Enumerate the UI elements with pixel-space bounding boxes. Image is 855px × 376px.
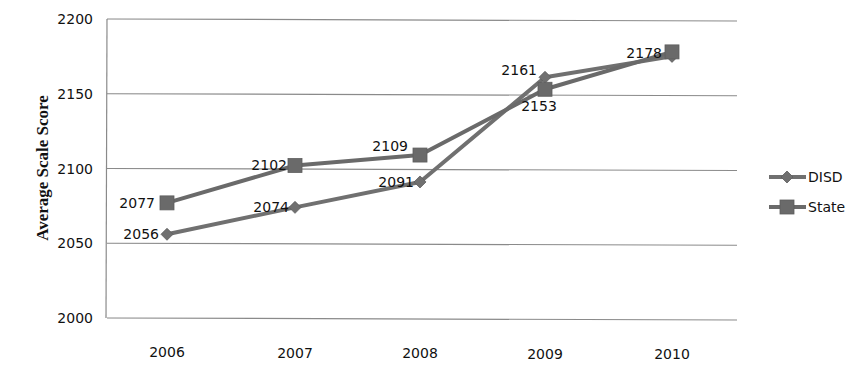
y-tick-label: 2100 [57, 161, 93, 177]
legend-label: State [808, 199, 845, 215]
y-axis-line [106, 19, 107, 318]
gridline [107, 318, 737, 320]
x-axis-ticks: 20062007200820092010 [149, 344, 690, 362]
square-marker-icon [288, 159, 302, 173]
diamond-marker-icon [289, 201, 301, 213]
gridline [107, 243, 737, 245]
gridline [107, 94, 737, 96]
data-label: 2153 [521, 98, 557, 114]
diamond-marker-icon [161, 228, 173, 240]
x-tick-label: 2006 [149, 344, 185, 360]
data-label: 2178 [626, 45, 662, 61]
x-tick-label: 2009 [527, 346, 563, 362]
line-chart: 20002050210021502200 2006200720082009201… [0, 0, 855, 376]
data-label: 2109 [372, 138, 408, 154]
data-label: 2091 [378, 174, 414, 190]
square-marker-icon [538, 82, 552, 96]
legend: DISDState [769, 169, 845, 215]
y-tick-label: 2200 [57, 11, 93, 27]
square-marker-icon [665, 45, 679, 59]
y-tick-label: 2050 [57, 235, 93, 251]
legend-item-disd: DISD [769, 169, 843, 185]
diamond-legend-icon [781, 171, 793, 183]
legend-label: DISD [808, 169, 843, 185]
axes [106, 19, 107, 318]
y-tick-label: 2000 [57, 310, 93, 326]
x-tick-label: 2010 [654, 346, 690, 362]
series-lines [160, 45, 679, 240]
square-marker-icon [160, 196, 174, 210]
data-label: 2074 [253, 199, 289, 215]
data-label: 2161 [501, 62, 537, 78]
y-axis-label: Average Scale Score [33, 95, 52, 241]
x-tick-label: 2008 [402, 345, 438, 361]
square-marker-icon [413, 148, 427, 162]
y-axis-ticks: 20002050210021502200 [57, 11, 93, 326]
gridline [107, 19, 737, 21]
x-tick-label: 2007 [277, 345, 313, 361]
series-line-disd [167, 56, 672, 234]
y-tick-label: 2150 [57, 86, 93, 102]
legend-item-state: State [769, 199, 845, 215]
data-label: 2102 [251, 157, 287, 173]
data-label: 2056 [123, 226, 159, 242]
square-legend-icon [780, 200, 794, 214]
gridlines [107, 19, 737, 320]
data-labels: 205620742091216120772102210921532178 [119, 45, 662, 242]
data-label: 2077 [119, 195, 155, 211]
gridline [107, 169, 737, 171]
